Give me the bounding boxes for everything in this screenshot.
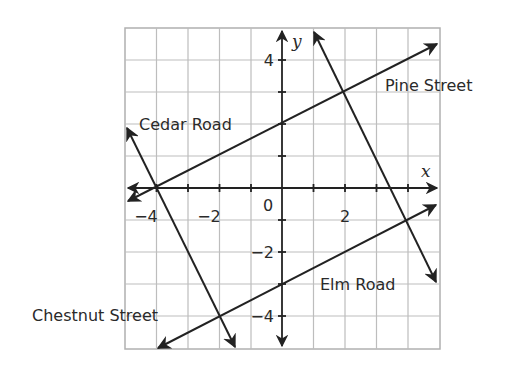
pine-street-line: [314, 32, 436, 282]
chestnut-street-label: Chestnut Street: [32, 306, 158, 325]
y-tick-neg4: −4: [250, 307, 274, 326]
x-tick-neg2: −2: [197, 207, 221, 226]
elm-road-label: Elm Road: [320, 275, 395, 294]
x-axis-label: x: [421, 161, 431, 181]
y-tick-neg2: −2: [250, 243, 274, 262]
x-tick-neg4: −4: [134, 207, 158, 226]
coordinate-graph: −4 −2 0 2 4 −2 −4 x y Cedar Road Pine St…: [0, 0, 529, 371]
x-tick-2: 2: [340, 207, 350, 226]
cedar-road-label: Cedar Road: [139, 115, 232, 134]
origin-label: 0: [263, 196, 273, 215]
y-axis-label: y: [291, 31, 302, 51]
pine-street-label: Pine Street: [385, 76, 472, 95]
y-tick-4: 4: [264, 51, 274, 70]
